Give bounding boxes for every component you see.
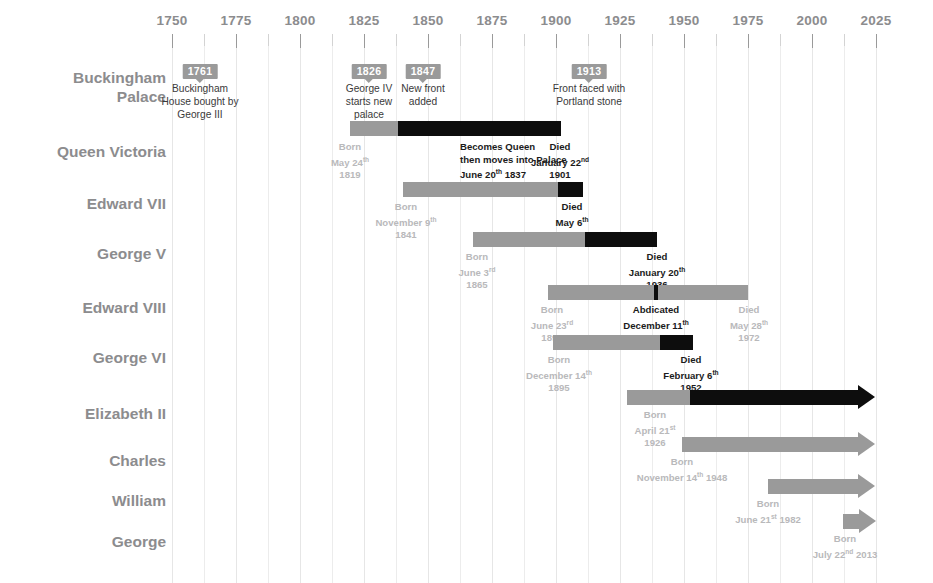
event-badge-1761: 1761	[183, 64, 218, 79]
event-badge-1847: 1847	[406, 64, 441, 79]
bar-edward8-abdication-marker	[654, 285, 658, 300]
bar-george-arrow	[843, 514, 876, 529]
anno-george5-born: BornJune 3rd1865	[446, 251, 508, 292]
bar-george6-pre-reign	[553, 335, 660, 350]
bar-george6-reign	[660, 335, 693, 350]
axis-label-1900: 1900	[541, 13, 572, 28]
axis-label-1825: 1825	[349, 13, 380, 28]
axis-label-2025: 2025	[861, 13, 892, 28]
axis-label-2000: 2000	[797, 13, 828, 28]
bar-charles-arrow	[682, 437, 875, 452]
bar-victoria-pre-reign	[350, 121, 398, 136]
anno-charles-born: BornNovember 14th 1948	[617, 456, 747, 484]
row-label-queen-victoria: Queen Victoria	[1, 142, 166, 161]
axis-label-1800: 1800	[285, 13, 316, 28]
row-label-charles: Charles	[1, 451, 166, 470]
event-text-1847: New frontadded	[385, 82, 461, 108]
anno-elizabeth2-born: BornApril 21st1926	[624, 409, 686, 450]
timeline-chart: 1750 1775 1800 1825 1850 1875 1900 1925 …	[0, 0, 933, 583]
row-label-william: William	[1, 491, 166, 510]
event-badge-1913: 1913	[572, 64, 607, 79]
bar-george5-pre-reign	[473, 232, 585, 247]
axis-label-1750: 1750	[157, 13, 188, 28]
anno-victoria-born: BornMay 24th1819	[319, 141, 381, 182]
axis-label-1925: 1925	[605, 13, 636, 28]
row-label-george-vi: George VI	[1, 348, 166, 367]
anno-george6-died: DiedFebruary 6th1952	[654, 354, 728, 395]
anno-george6-born: BornDecember 14th1895	[514, 354, 604, 395]
event-badge-1826: 1826	[352, 64, 387, 79]
axis-label-1875: 1875	[477, 13, 508, 28]
anno-victoria-died: DiedJanuary 22nd1901	[521, 141, 599, 182]
row-label-george: George	[1, 532, 166, 551]
axis-label-1775: 1775	[221, 13, 252, 28]
anno-william-born: BornJune 21st 1982	[709, 498, 827, 526]
axis-label-1950: 1950	[669, 13, 700, 28]
anno-edward8-died: DiedMay 28th1972	[718, 304, 780, 345]
row-label-george-v: George V	[1, 244, 166, 263]
bar-edward7-reign	[558, 182, 583, 197]
bar-victoria-reign	[398, 121, 561, 136]
axis-label-1850: 1850	[413, 13, 444, 28]
bar-edward8-life	[548, 285, 748, 300]
event-text-1761: BuckinghamHouse bought byGeorge III	[134, 82, 266, 121]
bar-elizabeth2-pre-reign	[627, 390, 690, 405]
axis-label-1975: 1975	[733, 13, 764, 28]
bar-edward7-pre-reign	[403, 182, 558, 197]
row-label-elizabeth-ii: Elizabeth II	[1, 404, 166, 423]
bar-elizabeth2-reign-arrow	[690, 390, 875, 405]
bar-george5-reign	[585, 232, 657, 247]
anno-edward7-born: BornNovember 9th1841	[363, 201, 449, 242]
event-text-1913: Front faced withPortland stone	[526, 82, 652, 108]
bar-william-arrow	[768, 479, 875, 494]
row-label-edward-vii: Edward VII	[1, 194, 166, 213]
anno-george-born: BornJuly 22nd 2013	[790, 533, 900, 561]
row-label-edward-viii: Edward VIII	[1, 298, 166, 317]
